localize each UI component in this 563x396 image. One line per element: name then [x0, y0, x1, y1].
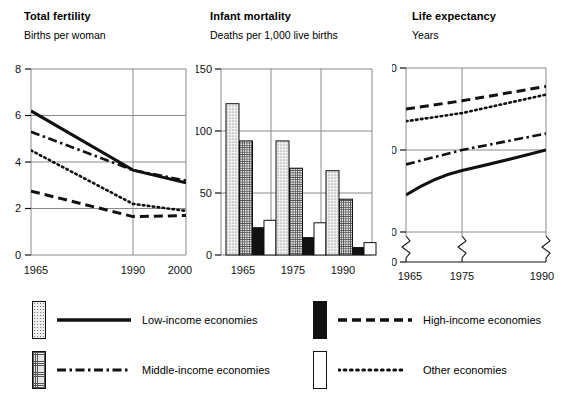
- bar-middle-income: [240, 141, 253, 255]
- bar-high-income: [254, 228, 264, 255]
- bar-middle-income: [340, 199, 353, 255]
- bar-group-1990: [326, 171, 376, 255]
- legend-swatch-middle-income-icon: [32, 351, 46, 389]
- panel-infant-mortality: Infant mortality Deaths per 1,000 live b…: [196, 0, 392, 285]
- x-tick-label-life: 1975: [450, 270, 474, 282]
- chart-infant-mortality: 150 100 50 0 1965 1975 1990: [196, 0, 392, 285]
- axis-break-marks: [402, 236, 550, 262]
- y-tick-label-fertility: 6: [15, 109, 21, 121]
- y-tick-label-mortality: 150: [196, 63, 212, 75]
- chart-life-expectancy: 80 60 40 0 1965 1975 1990: [392, 0, 563, 285]
- legend-item-other-economies: Other economies: [313, 348, 507, 392]
- bar-other: [264, 220, 276, 255]
- bar-high-income: [304, 238, 314, 255]
- bar-low-income: [326, 171, 339, 255]
- legend-item-high-income: High-income economies: [313, 298, 541, 342]
- legend-item-middle-income: Middle-income economies: [32, 348, 270, 392]
- legend-line-dotted-icon: [338, 363, 412, 377]
- x-tick-label-mortality: 1990: [331, 264, 355, 276]
- legend-swatch-low-income-icon: [32, 301, 46, 339]
- x-tick-label-fertility: 1990: [121, 264, 145, 276]
- series-line-middle-income: [406, 134, 546, 165]
- x-tick-label-life: 1990: [530, 270, 554, 282]
- y-ticks-mortality: [215, 69, 221, 255]
- legend-label-low-income: Low-income economies: [142, 314, 258, 326]
- bar-group-1965: [226, 104, 276, 255]
- y-tick-label-mortality: 100: [196, 125, 212, 137]
- chart-legend: Low-income economies Middle-income econo…: [0, 285, 563, 396]
- bar-other: [314, 223, 326, 255]
- y-ticks-fertility: [25, 69, 31, 255]
- y-tick-label-fertility: 2: [15, 202, 21, 214]
- y-tick-label-fertility: 8: [15, 63, 21, 75]
- legend-line-dashed-icon: [338, 313, 412, 327]
- bar-middle-income: [290, 168, 303, 255]
- x-tick-label-life: 1965: [398, 270, 422, 282]
- gridlines-life: [406, 68, 546, 236]
- panel-total-fertility: Total fertility Births per woman: [0, 0, 196, 285]
- legend-label-middle-income: Middle-income economies: [142, 364, 270, 376]
- series-line-low-income: [406, 150, 546, 195]
- series-line-high-income: [406, 86, 546, 109]
- legend-label-high-income: High-income economies: [423, 314, 541, 326]
- y-tick-label-fertility: 4: [15, 156, 21, 168]
- figure-root: Total fertility Births per woman: [0, 0, 563, 396]
- y-tick-label-life: 40: [392, 226, 397, 238]
- series-line-low-income: [31, 111, 186, 183]
- series-line-other-economies: [31, 150, 186, 211]
- legend-line-solid-icon: [57, 313, 131, 327]
- x-tick-label-mortality: 1965: [231, 264, 255, 276]
- legend-item-low-income: Low-income economies: [32, 298, 258, 342]
- bar-high-income: [354, 248, 364, 255]
- legend-swatch-high-income-icon: [313, 301, 327, 339]
- bar-low-income: [226, 104, 239, 255]
- y-tick-label-life: 60: [392, 144, 397, 156]
- y-tick-label-mortality: 0: [206, 249, 212, 261]
- panel-life-expectancy: Life expectancy Years: [392, 0, 563, 285]
- series-line-high-income: [31, 191, 186, 217]
- x-tick-label-fertility: 1965: [24, 264, 48, 276]
- bar-low-income: [276, 141, 289, 255]
- y-tick-label-fertility: 0: [15, 249, 21, 261]
- x-tick-label-fertility: 2000: [168, 264, 192, 276]
- bar-group-1975: [276, 141, 326, 255]
- legend-swatch-other-economies-icon: [313, 351, 327, 389]
- x-tick-label-mortality: 1975: [281, 264, 305, 276]
- y-tick-label-mortality: 50: [200, 187, 212, 199]
- legend-line-dash-dot-icon: [57, 363, 131, 377]
- y-tick-label-life: 0: [392, 256, 397, 268]
- legend-label-other-economies: Other economies: [423, 364, 507, 376]
- bar-other: [364, 243, 376, 255]
- y-ticks-life: [400, 68, 406, 262]
- chart-total-fertility: 8 6 4 2 0 1965 1990 2000: [0, 0, 196, 285]
- y-tick-label-life: 80: [392, 62, 397, 74]
